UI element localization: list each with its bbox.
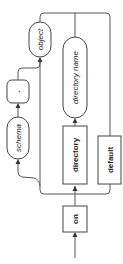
node-object: object: [29, 22, 51, 57]
node-dot-label: .: [13, 90, 22, 92]
arrow-icon: [73, 118, 78, 123]
arrow-icon: [38, 57, 43, 62]
node-directory-name: directory name: [63, 37, 87, 118]
dot-branch-line: [18, 60, 40, 80]
node-default-label: default: [106, 147, 115, 174]
node-directory-name-label: directory name: [71, 51, 80, 104]
schema-branch-line: [18, 162, 40, 186]
node-on-label: on: [71, 214, 80, 224]
node-on: on: [63, 206, 87, 232]
node-default: default: [98, 136, 121, 184]
arrow-icon: [73, 232, 78, 237]
node-schema: schema: [7, 117, 29, 159]
node-object-label: object: [36, 28, 45, 50]
node-schema-label: schema: [14, 123, 23, 152]
syntax-diagram: on directory directory name default sche…: [0, 0, 123, 264]
node-directory: directory: [63, 126, 87, 184]
arrow-icon: [16, 159, 21, 164]
node-dot: .: [7, 80, 29, 103]
arrow-icon: [73, 186, 78, 191]
arrow-icon: [16, 103, 21, 108]
node-directory-label: directory: [71, 137, 80, 172]
